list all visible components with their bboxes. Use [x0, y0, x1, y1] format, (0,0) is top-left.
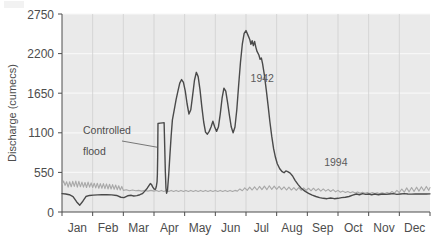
- x-tick-label: Dec: [404, 221, 425, 235]
- y-tick-label: 2750: [27, 8, 54, 22]
- x-tick-label: May: [189, 221, 212, 235]
- scan-artifact: [4, 1, 24, 8]
- chart-figure: 05501100165022002750 JanFebMarAprMayJunJ…: [0, 0, 443, 243]
- series-label-1942: 1942: [251, 72, 275, 84]
- series-label-1994: 1994: [324, 156, 348, 168]
- x-tick-label: Nov: [373, 221, 394, 235]
- x-tick-label: Apr: [160, 221, 179, 235]
- x-tick-label: Jan: [68, 221, 87, 235]
- y-axis-ticks: 05501100165022002750: [27, 8, 62, 220]
- y-tick-label: 2200: [27, 47, 54, 61]
- y-tick-label: 550: [34, 166, 54, 180]
- x-tick-label: Sep: [312, 221, 334, 235]
- y-tick-label: 1100: [28, 126, 54, 140]
- y-tick-label: 0: [47, 206, 54, 220]
- x-tick-label: Jun: [221, 221, 240, 235]
- x-axis-ticks: JanFebMarAprMayJunJulAugSepOctNovDec: [62, 212, 430, 235]
- controlled-flood-label-line1: Controlled: [83, 124, 131, 136]
- x-tick-label: Aug: [281, 221, 302, 235]
- discharge-hydrograph-chart: 05501100165022002750 JanFebMarAprMayJunJ…: [0, 0, 443, 243]
- controlled-flood-label-line2: flood: [83, 145, 106, 157]
- x-tick-label: Mar: [128, 221, 149, 235]
- x-tick-label: Oct: [344, 221, 363, 235]
- y-tick-label: 1650: [27, 87, 54, 101]
- x-tick-label: Feb: [98, 221, 119, 235]
- x-tick-label: Jul: [254, 221, 269, 235]
- y-axis-title: Discharge (cumecs): [6, 64, 18, 162]
